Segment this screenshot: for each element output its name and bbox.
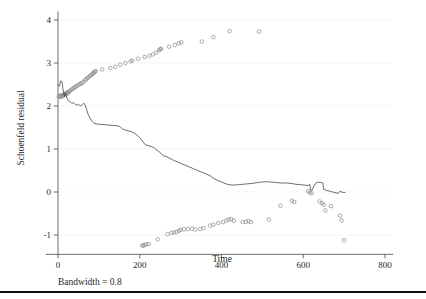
data-point (257, 30, 261, 34)
data-point (194, 228, 198, 232)
y-tick-label: 3 (47, 58, 52, 68)
data-point (200, 40, 204, 44)
tick-marks (54, 20, 385, 258)
data-point (113, 65, 117, 69)
x-tick-label: 200 (133, 260, 147, 270)
axes (46, 12, 393, 255)
data-point (167, 45, 171, 49)
data-point (212, 223, 216, 227)
data-point (202, 226, 206, 230)
footer-divider (0, 291, 426, 293)
data-point (154, 51, 158, 55)
figure-container: -1012340200400600800 Time Schoenfeld res… (0, 0, 426, 299)
x-axis-title: Time (212, 254, 232, 264)
data-point (212, 35, 216, 39)
data-point (342, 238, 346, 242)
y-tick-label: 0 (47, 187, 52, 197)
smooth-line-series (58, 81, 345, 193)
scatter-series (140, 189, 346, 247)
y-tick-label: 4 (47, 15, 52, 25)
data-point (143, 55, 147, 59)
data-point (338, 214, 342, 218)
data-point (100, 68, 104, 72)
data-point (329, 204, 333, 208)
schoenfeld-residual-chart: -1012340200400600800 Time Schoenfeld res… (0, 0, 426, 299)
x-tick-label: 800 (378, 260, 392, 270)
tick-labels: -1012340200400600800 (44, 15, 393, 270)
y-tick-label: 2 (47, 101, 52, 111)
data-point (267, 218, 271, 222)
bandwidth-caption: Bandwidth = 0.8 (58, 277, 122, 287)
scatter-series (57, 29, 261, 98)
data-point (340, 219, 344, 223)
data-point (118, 63, 122, 67)
data-point (216, 221, 220, 225)
gridlines (46, 20, 393, 235)
data-point (186, 227, 190, 231)
y-tick-label: 1 (47, 144, 52, 154)
data-point (279, 204, 283, 208)
data-series (57, 29, 346, 247)
data-point (136, 57, 140, 61)
data-point (324, 209, 328, 213)
x-tick-label: 0 (56, 260, 61, 270)
x-tick-label: 600 (297, 260, 311, 270)
y-axis-title: Schoenfeld residual (16, 90, 26, 166)
data-point (173, 43, 177, 47)
data-point (156, 238, 160, 242)
data-point (147, 242, 151, 246)
data-point (109, 66, 113, 70)
y-tick-label: -1 (44, 230, 52, 240)
data-point (228, 29, 232, 33)
